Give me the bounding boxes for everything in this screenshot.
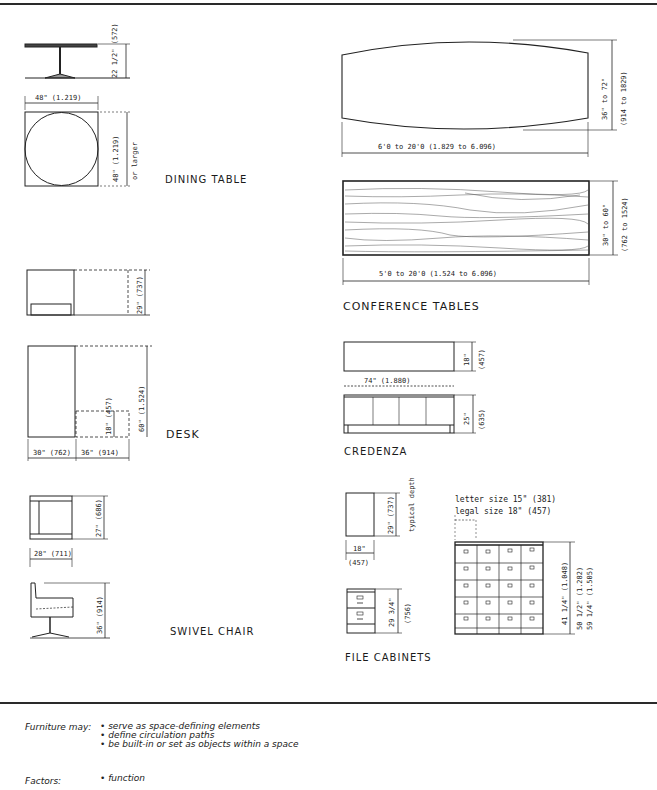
notes-factors-item: • function [100,774,145,783]
chair-depth-dim: 27" (686) [95,499,103,537]
rect-width-mm-dim: (762 to 1524) [621,197,629,252]
boat-width-dim: 36" to 72" [601,78,609,120]
legal-size-dim: legal size 18" (457) [455,507,551,516]
rect-length-dim: 5'0 to 20'0 (1.524 to 6.096) [379,270,497,278]
notes-factors-label: Factors: [25,776,61,786]
credenza-depth-dim: 18" [463,353,471,366]
label-dining-table: DINING TABLE [165,174,247,185]
desk-return-width-dim: 36" (914) [81,449,119,457]
notes-factors-list: • function [100,774,145,783]
file-depth-note: typical depth [408,477,416,532]
label-conference-tables: CONFERENCE TABLES [343,300,480,313]
lateral-file-elevation [455,515,575,634]
credenza-height-mm-dim: (635) [478,409,486,430]
rect-width-dim: 30" to 60" [602,204,610,246]
label-credenza: CREDENZA [344,446,407,457]
file-depth-dim: 29" (737) [387,496,395,534]
label-swivel-chair: SWIVEL CHAIR [170,626,254,637]
drawing-canvas: 22 1/2" (572) 48" (1.219) 48" (1.219) or… [0,0,657,700]
label-file-cabinets: FILE CABINETS [345,652,432,663]
label-desk: DESK [166,428,200,441]
credenza-depth-mm-dim: (457) [478,349,486,370]
lateral-height-1-dim: 41 1/4" (1.048) [561,562,569,625]
lateral-height-2-dim: 50 1/2" (1.282) [576,567,584,630]
dining-height-dim: 22 1/2" (572) [111,23,119,78]
boat-width-mm-dim: (914 to 1829) [620,71,628,126]
letter-size-dim: letter size 15" (381) [455,495,556,504]
conference-boat-table [342,40,617,157]
desk-return-depth-dim: 18" (457) [105,397,113,435]
credenza-height-dim: 25" [463,412,471,425]
desk-depth-dim: 60" (1.524) [138,386,146,432]
notes-furniture-list: • serve as space-defining elements • def… [100,722,299,749]
desk-height-dim: 29" (737) [136,276,144,314]
bottom-rule [0,702,657,704]
lateral-height-3-dim: 59 1/4" (1.505) [586,567,594,630]
credenza-elevation [344,395,476,433]
file-height-mm-dim: (756) [404,603,412,624]
notes-furniture-item: • be built-in or set as objects within a… [100,740,299,749]
chair-height-dim: 36" (914) [96,596,104,634]
notes-furniture-label: Furniture may: [25,722,91,732]
boat-length-dim: 6'0 to 20'0 (1.829 to 6.096) [378,143,496,151]
file-width-mm-dim: (457) [348,559,369,567]
credenza-length-dim: 74" (1.880) [364,377,410,385]
dining-depth-note: or larger [131,142,139,180]
dining-width-dim: 48" (1.219) [35,94,81,102]
desk-elevation [27,270,150,315]
chair-width-dim: 28" (711) [34,550,72,558]
dining-depth-dim: 48" (1.219) [112,136,120,182]
desk-plan [28,346,152,461]
desk-width-dim: 30" (762) [33,449,71,457]
file-width-dim: 18" [353,545,366,553]
file-height-dim: 29 3/4" [388,597,396,627]
